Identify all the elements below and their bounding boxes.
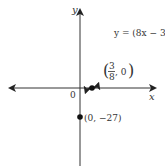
x-intercept-point	[89, 85, 95, 91]
x-axis-label: x	[149, 91, 155, 102]
plot: y x 0 y = (8x − 3)3 ( 3 8 , 0 ) (0, −27)	[0, 0, 165, 168]
y-axis-label: y	[71, 4, 78, 15]
svg-text:): )	[128, 61, 134, 80]
graph: y x 0 y = (8x − 3)3 ( 3 8 , 0 ) (0, −27)	[0, 0, 165, 168]
origin-label: 0	[70, 90, 76, 100]
svg-text:, 0: , 0	[115, 67, 127, 77]
x-intercept-label: ( 3 8 , 0 )	[103, 61, 134, 82]
y-intercept-label: (0, −27)	[84, 113, 121, 123]
y-intercept-point	[77, 114, 83, 120]
curve-label: y = (8x − 3)3	[113, 26, 165, 38]
